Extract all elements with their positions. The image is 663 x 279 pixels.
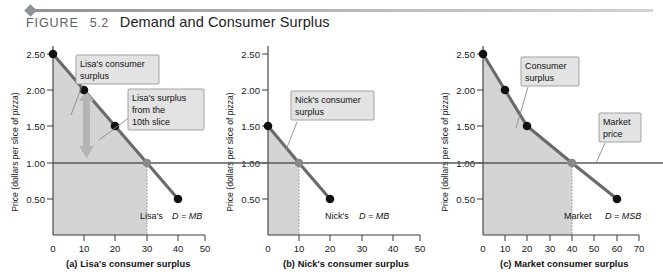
xtick50: 50 (200, 243, 211, 254)
xtick20: 20 (522, 243, 533, 254)
expenditure-region (53, 163, 147, 235)
panel-caption-c: (c) Market consumer surplus (500, 259, 628, 269)
ytick0-5: 0.50 (456, 194, 475, 205)
xtick40: 40 (173, 243, 184, 254)
expenditure-region (268, 163, 299, 235)
y-axis-ticks (47, 54, 53, 199)
panel-caption-a: (a) Lisa's consumer surplus (66, 259, 190, 269)
y-axis-title: Price (dollars per slice of pizza) (10, 92, 20, 212)
data-point (326, 195, 335, 204)
callout-line: Consumer (525, 61, 567, 71)
ytick2: 2.00 (26, 85, 45, 96)
figure-label: FIGURE (26, 16, 79, 30)
callout-leader-line (596, 143, 605, 163)
data-point-equilibrium (295, 159, 304, 168)
callout-line: Lisa's consumer (80, 59, 145, 69)
xtick10: 10 (79, 243, 90, 254)
callout-line: surplus (80, 71, 110, 81)
data-point (174, 195, 183, 204)
y-axis-title: Price (dollars per slice of pizza) (225, 92, 235, 212)
xtick0: 0 (480, 243, 485, 254)
figure-header: FIGURE 5.2 Demand and Consumer Surplus (0, 0, 663, 32)
expenditure-region (483, 163, 572, 235)
y-axis-ticks (477, 54, 483, 199)
figure-number: 5.2 (90, 16, 109, 30)
ytick0-5: 0.50 (241, 194, 260, 205)
callout-line: Lisa's surplus (132, 93, 187, 103)
ytick0-5: 0.50 (26, 194, 45, 205)
xtick40: 40 (567, 243, 578, 254)
header-rule (33, 9, 653, 12)
ytick2-5: 2.50 (26, 49, 45, 60)
panel-caption-b: (b) Nick's consumer surplus (283, 259, 409, 269)
xtick0: 0 (265, 243, 270, 254)
chart-panel-market: 3.00 2.50 2.00 1.50 1.00 0.50 0 10 20 30… (433, 32, 663, 257)
data-point (264, 122, 273, 131)
xtick30: 30 (545, 243, 556, 254)
curve-label-name: Nick's (325, 211, 349, 221)
xtick0: 0 (50, 243, 55, 254)
chart-panel-nick: 3.00 2.50 2.00 1.50 1.00 0.50 0 10 20 30… (218, 32, 433, 257)
xtick40: 40 (388, 243, 399, 254)
callout-line: from the (132, 105, 165, 115)
curve-label-name: Lisa's (140, 211, 163, 221)
y-axis-title: Price (dollars per slice of pizza) (440, 92, 450, 212)
xtick20: 20 (325, 243, 336, 254)
ytick2: 2.00 (241, 85, 260, 96)
data-point (523, 122, 532, 131)
callout-line: price (603, 129, 623, 139)
data-point (479, 50, 488, 59)
data-point (613, 195, 622, 204)
x-axis-ticks (84, 235, 205, 241)
chart-panel-lisa: 3.00 3.00 3.00 3.00 3.00 3.00 3.00 3.00 … (0, 32, 218, 257)
callout-line: 10th slice (132, 117, 170, 127)
ytick2: 2.00 (456, 85, 475, 96)
callout-line: Market (603, 117, 631, 127)
curve-label-eq: D = MB (359, 211, 389, 221)
ytick2-5: 2.50 (456, 49, 475, 60)
figure-title-group: FIGURE 5.2 Demand and Consumer Surplus (26, 14, 330, 30)
callout-line: Nick's consumer (295, 95, 361, 105)
xtick60: 60 (612, 243, 623, 254)
callout-line: surplus (295, 107, 325, 117)
x-axis-ticks (299, 235, 420, 241)
xtick10: 10 (294, 243, 305, 254)
ytick2-5: 2.50 (241, 49, 260, 60)
xtick10: 10 (500, 243, 511, 254)
xtick50: 50 (589, 243, 600, 254)
xtick30: 30 (142, 243, 153, 254)
data-point (80, 86, 89, 95)
curve-label-eq: D = MB (172, 211, 202, 221)
curve-label-eq: D = MSB (605, 211, 641, 221)
data-point (501, 86, 510, 95)
callout-leader-line (286, 122, 297, 150)
ytick1: 1.00 (26, 158, 45, 169)
data-point-equilibrium (143, 159, 152, 168)
ytick1-5: 1.50 (26, 121, 45, 132)
xtick50: 50 (415, 243, 426, 254)
xtick20: 20 (110, 243, 121, 254)
x-axis-ticks (505, 235, 639, 241)
xtick30: 30 (357, 243, 368, 254)
ytick1-5: 1.50 (241, 121, 260, 132)
curve-label-name: Market (564, 211, 592, 221)
callout-line: surplus (525, 73, 555, 83)
data-point (49, 50, 58, 59)
ytick1-5: 1.50 (456, 121, 475, 132)
page-title: Demand and Consumer Surplus (120, 14, 330, 30)
xtick70: 70 (634, 243, 645, 254)
data-point-equilibrium (568, 159, 577, 168)
